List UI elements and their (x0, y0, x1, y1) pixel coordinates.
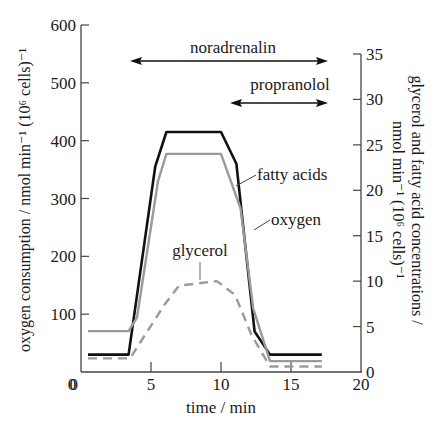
x-tick-label: 5 (147, 375, 156, 394)
propranolol-arrow: propranolol (230, 75, 330, 107)
fatty-acids-callout: fatty acids (236, 165, 327, 186)
right-tick-label: 30 (366, 90, 383, 109)
oxygen-label: oxygen (271, 210, 322, 229)
right-axis-label-line2: nmol min⁻¹ (10⁶ cells)⁻¹ (389, 121, 407, 279)
left-axis-label: oxygen consumption / nmol min⁻¹ (10⁶ cel… (16, 48, 34, 352)
right-tick-label: 5 (366, 318, 375, 337)
x-tick-label: 20 (353, 375, 370, 394)
left-tick-label: 500 (51, 74, 77, 93)
noradrenalin-label: noradrenalin (190, 38, 276, 57)
right-tick-label: 15 (366, 227, 383, 246)
x-axis-ticks: 05101520 (68, 362, 370, 394)
left-axis-ticks: 0100200300400500600 (51, 16, 90, 394)
x-tick-label: 10 (213, 375, 230, 394)
x-tick-label: 0 (68, 375, 77, 394)
propranolol-label: propranolol (250, 75, 330, 94)
oxygen-callout: oxygen (254, 210, 322, 230)
right-tick-label: 35 (366, 45, 383, 64)
left-tick-label: 300 (51, 190, 77, 209)
noradrenalin-arrow: noradrenalin (130, 38, 328, 65)
chart: 0100200300400500600 05101520253035 05101… (0, 0, 448, 433)
left-tick-label: 200 (51, 247, 77, 266)
x-tick-label: 15 (283, 375, 300, 394)
glycerol-callout: glycerol (172, 241, 228, 280)
x-axis-label: time / min (186, 398, 256, 417)
glycerol-label: glycerol (172, 241, 228, 260)
right-tick-label: 20 (366, 181, 383, 200)
right-axis-ticks: 05101520253035 (353, 45, 383, 382)
left-tick-label: 600 (51, 16, 77, 35)
right-tick-label: 10 (366, 272, 383, 291)
right-tick-label: 25 (366, 136, 383, 155)
left-tick-label: 100 (51, 305, 77, 324)
right-axis-label-line1: glycerol and fatty acid concentrations / (408, 75, 426, 325)
left-tick-label: 400 (51, 132, 77, 151)
fatty-acids-label: fatty acids (257, 165, 327, 184)
